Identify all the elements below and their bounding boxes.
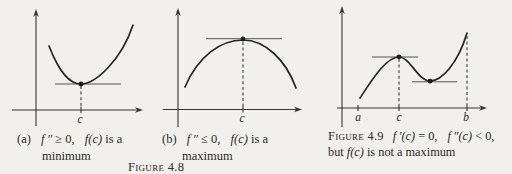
panel-a-fc: f(c) [85,132,102,146]
maximum-point-dot [241,37,246,42]
textbook-figure-page: c c a c b (a) f ″ [0,0,512,174]
figure-4-9-label: Figure 4.9 [328,129,384,143]
panel-a-relation: ≥ 0, [55,132,74,146]
graph-panel-b: c [160,0,320,128]
caption-panel-b-line2: maximum [182,148,268,165]
fig49-rel1: = 0, [418,129,437,143]
local-max-dot [397,54,402,59]
caption-panel-a-line1: (a) f ″ ≥ 0, f(c) is a [17,131,122,148]
panel-a-suffix: is a [105,132,122,146]
panel-b-second-derivative: f ″ [187,132,198,146]
convex-curve [49,25,133,84]
panel-a-index: (a) [17,132,31,146]
caption-panel-b-line1: (b) f ″ ≤ 0, f(c) is a [162,131,268,148]
caption-panel-a: (a) f ″ ≥ 0, f(c) is a minimum [17,131,122,165]
fig49-rel2: < 0, [475,129,494,143]
x-tick-label-c: c [396,111,401,123]
fig49-first-derivative: f ′(c) [393,129,415,143]
panel-b-fc: f(c) [231,132,248,146]
fig49-second-derivative: f ″(c) [447,129,472,143]
minimum-point-dot [79,82,84,87]
x-tick-label-a: a [355,111,361,123]
fig49-line2-fc: f(c) [347,145,364,159]
x-tick-label-b: b [463,111,469,123]
caption-figure-4-9-line2: but f(c) is not a maximum [328,145,494,161]
caption-figure-4-9-line1: Figure 4.9 f ′(c) = 0, f ″(c) < 0, [328,129,494,145]
caption-figure-4-9: Figure 4.9 f ′(c) = 0, f ″(c) < 0, but f… [328,129,494,160]
x-tick-label-c: c [239,112,244,124]
concave-curve [185,40,296,88]
caption-panel-a-line2: minimum [42,148,122,165]
cubic-curve [360,33,467,98]
x-tick-label-c: c [77,113,82,125]
fig49-line2-prefix: but [328,145,344,159]
graph-panel-a: c [0,0,160,128]
fig49-line2-suffix: is not a maximum [367,145,455,159]
panel-b-relation: ≤ 0, [201,132,220,146]
panel-a-second-derivative: f ″ [41,132,52,146]
figure-4-8-label: Figure 4.8 [128,159,184,174]
panel-b-index: (b) [162,132,177,146]
graph-panel-fig49: a c b [330,0,512,128]
panel-b-suffix: is a [251,132,268,146]
local-min-dot [428,79,433,84]
